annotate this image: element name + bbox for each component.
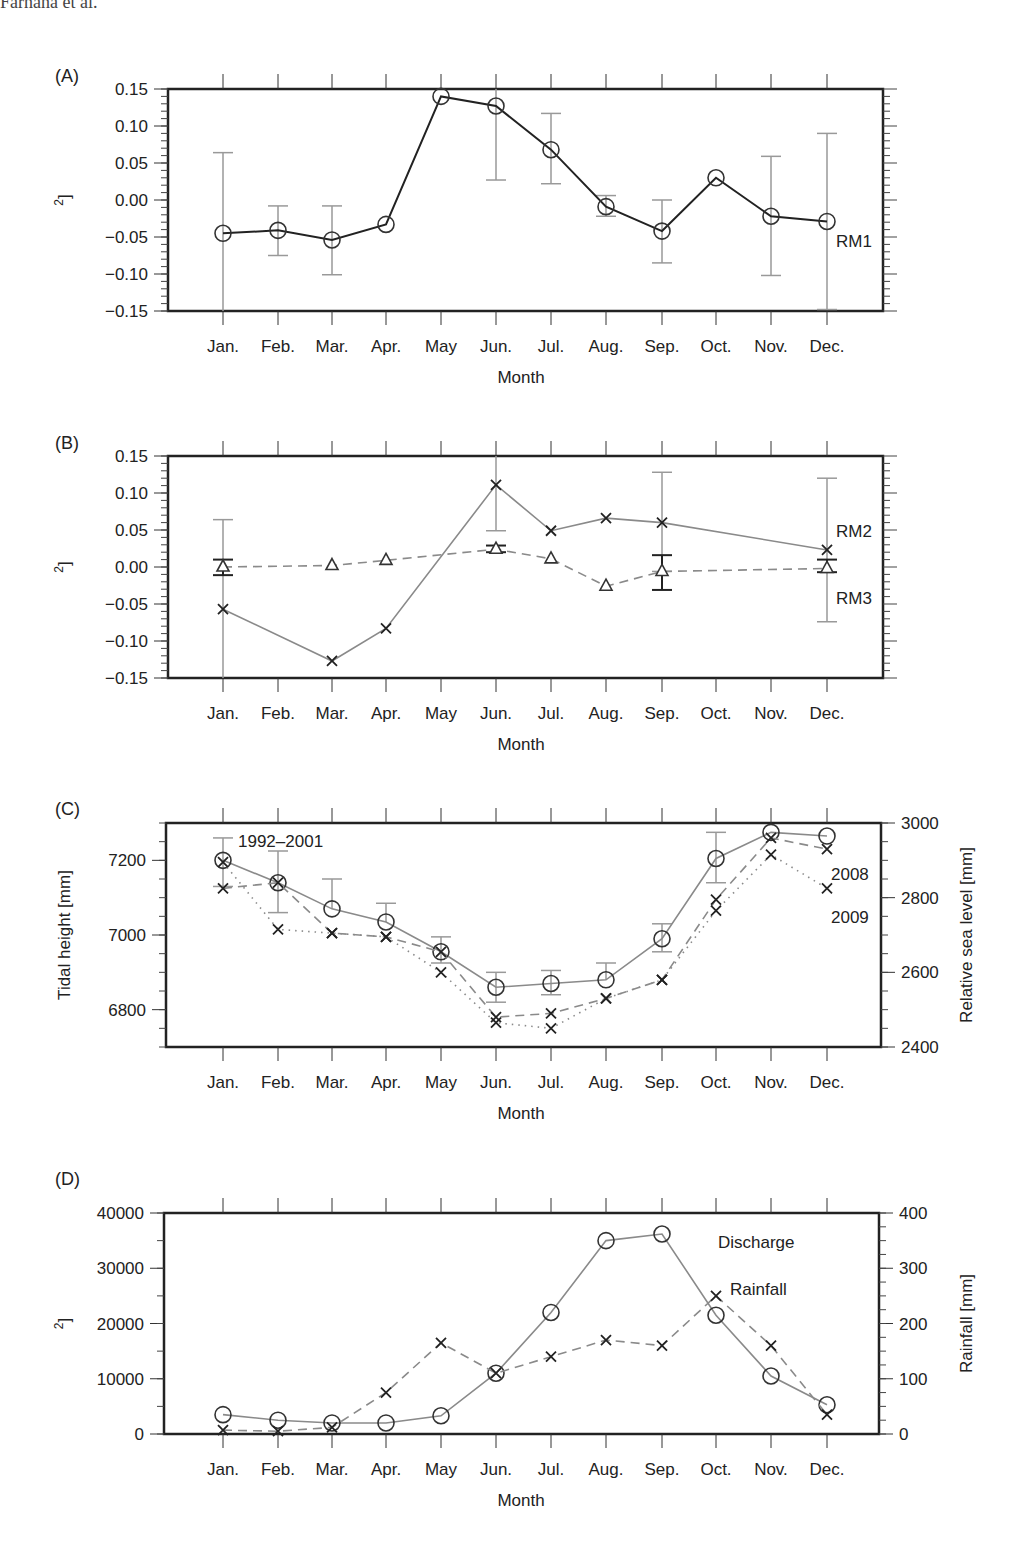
y-tick-label: 0.15 bbox=[115, 447, 148, 466]
x-marker bbox=[491, 1012, 501, 1022]
x-axis-title: Month bbox=[497, 1104, 544, 1123]
x-tick-label: Dec. bbox=[810, 1073, 845, 1092]
figure-canvas: (A)Jan.Feb.Mar.Apr.MayJun.Jul.Aug.Sep.Oc… bbox=[0, 0, 1019, 1542]
y-tick-label: −0.10 bbox=[105, 632, 148, 651]
y-tick-label-right: 400 bbox=[899, 1204, 927, 1223]
x-marker bbox=[822, 1410, 832, 1420]
y-axis-title: 2] bbox=[52, 561, 74, 572]
annotation-discharge: Discharge bbox=[718, 1233, 795, 1252]
x-tick-label: Apr. bbox=[371, 704, 401, 723]
x-marker bbox=[381, 932, 391, 942]
y-tick-label: 6800 bbox=[108, 1001, 146, 1020]
annotation-rm1: RM1 bbox=[836, 232, 872, 251]
x-tick-label: Sep. bbox=[645, 1073, 680, 1092]
x-tick-label: Oct. bbox=[700, 337, 731, 356]
y-tick-label-right: 0 bbox=[899, 1425, 908, 1444]
series-line bbox=[223, 485, 827, 661]
x-tick-label: May bbox=[425, 337, 458, 356]
x-tick-label: Oct. bbox=[700, 704, 731, 723]
x-tick-label: Jul. bbox=[538, 337, 564, 356]
x-tick-label: Dec. bbox=[810, 337, 845, 356]
y-tick-label: 40000 bbox=[97, 1204, 144, 1223]
x-marker bbox=[436, 1338, 446, 1348]
y-tick-label: 7000 bbox=[108, 926, 146, 945]
y-tick-label: −0.05 bbox=[105, 228, 148, 247]
series-rm3 bbox=[213, 542, 837, 590]
series-rm2 bbox=[213, 456, 837, 678]
chart-panel-a: (A)Jan.Feb.Mar.Apr.MayJun.Jul.Aug.Sep.Oc… bbox=[52, 66, 897, 387]
x-tick-label: Mar. bbox=[315, 337, 348, 356]
x-tick-label: Feb. bbox=[261, 1073, 295, 1092]
y-tick-label-right: 3000 bbox=[901, 814, 939, 833]
x-tick-label: May bbox=[425, 704, 458, 723]
x-marker bbox=[657, 975, 667, 985]
x-tick-label: Mar. bbox=[315, 1073, 348, 1092]
x-axis-title: Month bbox=[497, 368, 544, 387]
y-tick-label: 0.00 bbox=[115, 558, 148, 577]
triangle-marker bbox=[821, 561, 833, 572]
y-tick-label: 7200 bbox=[108, 851, 146, 870]
x-marker bbox=[381, 623, 391, 633]
y-tick-label-right: 200 bbox=[899, 1315, 927, 1334]
series-2009 bbox=[218, 850, 832, 1034]
series-line bbox=[223, 832, 827, 987]
x-tick-label: Aug. bbox=[589, 337, 624, 356]
chart-panel-d: (D)Jan.Feb.Mar.Apr.MayJun.Jul.Aug.Sep.Oc… bbox=[52, 1169, 976, 1510]
y-tick-label: 0.15 bbox=[115, 80, 148, 99]
x-tick-label: Jul. bbox=[538, 704, 564, 723]
x-tick-label: Jan. bbox=[207, 704, 239, 723]
x-tick-label: Jul. bbox=[538, 1073, 564, 1092]
y-tick-label: 20000 bbox=[97, 1315, 144, 1334]
x-tick-label: Jun. bbox=[480, 704, 512, 723]
y-tick-label: −0.15 bbox=[105, 302, 148, 321]
x-tick-label: Aug. bbox=[589, 1073, 624, 1092]
annotation-rm2: RM2 bbox=[836, 522, 872, 541]
x-marker bbox=[491, 1368, 501, 1378]
triangle-marker bbox=[217, 560, 229, 571]
series-line bbox=[223, 1234, 827, 1423]
x-marker bbox=[657, 1341, 667, 1351]
x-axis-title: Month bbox=[497, 1491, 544, 1510]
y-tick-label: −0.10 bbox=[105, 265, 148, 284]
x-tick-label: Oct. bbox=[700, 1460, 731, 1479]
x-tick-label: Jan. bbox=[207, 337, 239, 356]
x-tick-label: Nov. bbox=[754, 1460, 788, 1479]
y-tick-label-right: 2600 bbox=[901, 963, 939, 982]
panel-label: (B) bbox=[55, 433, 79, 453]
series-2008 bbox=[218, 833, 832, 1022]
x-marker bbox=[546, 1352, 556, 1362]
x-tick-label: Aug. bbox=[589, 704, 624, 723]
x-tick-label: Jan. bbox=[207, 1460, 239, 1479]
x-marker bbox=[436, 967, 446, 977]
x-tick-label: Feb. bbox=[261, 704, 295, 723]
series-rm1 bbox=[213, 88, 837, 311]
x-tick-label: Jul. bbox=[538, 1460, 564, 1479]
y-axis-title: Tidal height [mm] bbox=[55, 870, 74, 1000]
series-1992-2001 bbox=[213, 824, 835, 1002]
y-axis-title: 2] bbox=[52, 1318, 74, 1329]
y-tick-label: 0.05 bbox=[115, 521, 148, 540]
x-tick-label: Mar. bbox=[315, 704, 348, 723]
x-marker bbox=[273, 924, 283, 934]
x-marker bbox=[711, 895, 721, 905]
y-axis-title: 2] bbox=[52, 194, 74, 205]
chart-panel-b: (B)Jan.Feb.Mar.Apr.MayJun.Jul.Aug.Sep.Oc… bbox=[52, 433, 897, 754]
annotation-rainfall: Rainfall bbox=[730, 1280, 787, 1299]
x-marker bbox=[546, 1023, 556, 1033]
x-tick-label: Oct. bbox=[700, 1073, 731, 1092]
triangle-marker bbox=[545, 552, 557, 563]
y-tick-label: 0.10 bbox=[115, 484, 148, 503]
x-tick-label: Nov. bbox=[754, 704, 788, 723]
triangle-marker bbox=[656, 564, 668, 575]
y-tick-label: 0.05 bbox=[115, 154, 148, 173]
x-tick-label: Jun. bbox=[480, 1073, 512, 1092]
x-tick-label: Sep. bbox=[645, 337, 680, 356]
x-tick-label: Apr. bbox=[371, 1073, 401, 1092]
x-marker bbox=[766, 850, 776, 860]
x-axis-title: Month bbox=[497, 735, 544, 754]
triangle-marker bbox=[326, 559, 338, 570]
chart-panel-c: (C)Jan.Feb.Mar.Apr.MayJun.Jul.Aug.Sep.Oc… bbox=[55, 799, 976, 1123]
x-marker bbox=[601, 993, 611, 1003]
x-marker bbox=[766, 1341, 776, 1351]
x-tick-label: Aug. bbox=[589, 1460, 624, 1479]
